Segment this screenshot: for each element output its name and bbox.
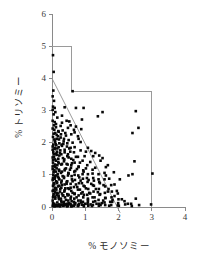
data-point <box>57 192 60 195</box>
data-point <box>73 161 76 164</box>
data-point <box>55 134 58 137</box>
data-point <box>70 157 73 160</box>
x-tick-label: 1 <box>75 213 95 222</box>
data-point <box>55 126 58 129</box>
data-point <box>67 127 70 130</box>
data-point <box>73 129 76 132</box>
data-point <box>77 166 80 169</box>
data-point <box>67 204 70 207</box>
data-point <box>75 125 78 128</box>
data-point <box>104 197 107 200</box>
data-point <box>53 121 56 124</box>
data-point <box>103 172 106 175</box>
data-point <box>93 179 96 182</box>
data-point <box>110 204 113 207</box>
data-point <box>97 199 100 202</box>
data-point <box>53 100 56 103</box>
data-point <box>111 201 114 204</box>
data-point <box>71 141 74 144</box>
data-point <box>57 130 60 133</box>
data-point <box>117 192 120 195</box>
data-point <box>77 138 80 141</box>
data-point <box>95 188 98 191</box>
data-point <box>82 204 85 207</box>
y-tick-label: 4 <box>30 74 46 83</box>
data-point <box>131 132 134 135</box>
data-point <box>57 177 60 180</box>
y-tick-label: 6 <box>30 10 46 19</box>
data-point <box>131 173 134 176</box>
data-point <box>103 201 106 204</box>
data-point <box>82 169 85 172</box>
data-point <box>77 174 80 177</box>
x-tick-label: 3 <box>142 213 162 222</box>
data-point <box>66 142 69 145</box>
data-point <box>87 188 90 191</box>
data-point <box>131 205 134 208</box>
data-point <box>51 165 54 168</box>
data-point <box>60 133 63 136</box>
data-point <box>63 138 66 141</box>
data-point <box>67 172 70 175</box>
data-point <box>52 136 55 139</box>
data-point <box>75 107 78 110</box>
data-point <box>55 154 58 157</box>
data-point <box>78 202 81 205</box>
data-point <box>57 157 60 160</box>
data-point <box>52 113 55 116</box>
data-point <box>62 140 65 143</box>
data-point <box>89 203 92 206</box>
data-point <box>108 177 111 180</box>
data-point <box>82 201 85 204</box>
data-point <box>55 174 58 177</box>
data-point <box>60 197 63 200</box>
data-point <box>150 203 153 206</box>
data-point <box>89 161 92 164</box>
data-point <box>61 184 64 187</box>
data-point <box>90 150 93 153</box>
data-point <box>113 171 116 174</box>
data-point <box>57 204 60 207</box>
data-point <box>57 146 60 149</box>
data-point <box>63 106 66 109</box>
data-point <box>60 201 63 204</box>
data-point <box>133 160 136 163</box>
data-point <box>51 109 54 112</box>
x-axis-tick-labels: 01234 <box>0 213 203 227</box>
scatter-plot-figure: % トリソミー % モノソミー 0123456 01234 <box>0 0 203 260</box>
data-point <box>63 151 66 154</box>
data-point <box>58 138 61 141</box>
data-point <box>73 204 76 207</box>
data-point <box>58 168 61 171</box>
data-point <box>98 188 101 191</box>
data-point <box>77 205 80 208</box>
data-point <box>54 139 57 142</box>
data-point <box>92 184 95 187</box>
data-point <box>99 182 102 185</box>
data-point <box>101 111 104 114</box>
data-point <box>77 199 80 202</box>
data-point <box>64 168 67 171</box>
data-point <box>98 154 101 157</box>
data-point <box>85 150 88 153</box>
data-point <box>55 204 58 207</box>
data-point <box>77 188 80 191</box>
data-point <box>61 192 64 195</box>
data-point <box>92 190 95 193</box>
data-point <box>123 200 126 203</box>
x-tick-label: 4 <box>175 213 195 222</box>
data-point <box>86 177 89 180</box>
data-point <box>78 182 81 185</box>
data-point <box>94 152 97 155</box>
data-point <box>73 174 76 177</box>
data-point <box>73 151 76 154</box>
data-point <box>101 202 104 205</box>
data-point <box>86 181 89 184</box>
data-point <box>95 202 98 205</box>
data-point <box>113 183 116 186</box>
data-point <box>119 178 122 181</box>
data-point <box>97 115 100 118</box>
data-point <box>70 195 73 198</box>
data-point <box>53 129 56 132</box>
data-point <box>92 155 95 158</box>
